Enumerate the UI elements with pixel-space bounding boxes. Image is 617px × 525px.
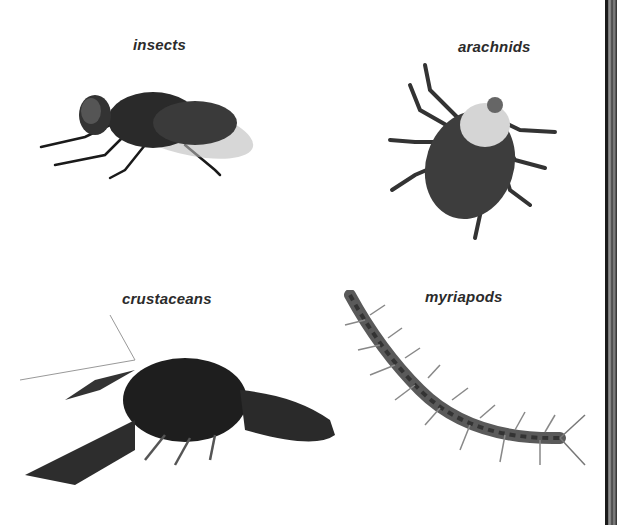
crayfish-icon [15, 310, 345, 510]
label-crustaceans: crustaceans [122, 290, 212, 307]
fly-icon [35, 75, 275, 185]
tick-icon [380, 50, 565, 245]
photo-edge-strip [605, 0, 617, 525]
label-insects: insects [133, 36, 186, 53]
centipede-icon [340, 290, 590, 475]
